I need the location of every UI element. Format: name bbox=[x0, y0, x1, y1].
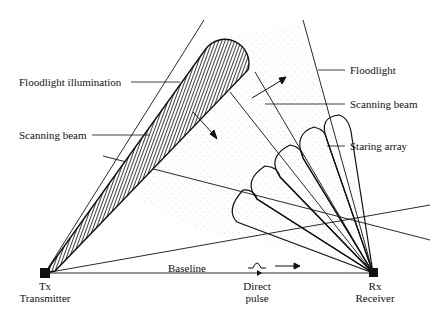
direct-pulse-line2: pulse bbox=[235, 292, 279, 304]
label-baseline: Baseline bbox=[168, 262, 206, 274]
bistatic-radar-diagram: Floodlight illumination Scanning beam Fl… bbox=[0, 0, 438, 317]
label-floodlight-illumination: Floodlight illumination bbox=[19, 76, 121, 88]
label-staring-array: Staring array bbox=[350, 140, 407, 152]
baseline-arrowhead bbox=[257, 270, 262, 276]
label-scanning-beam-left: Scanning beam bbox=[19, 129, 87, 141]
direct-pulse-line1: Direct bbox=[235, 280, 279, 292]
label-direct-pulse: Direct pulse bbox=[235, 280, 279, 304]
rx-abbr: Rx bbox=[343, 280, 407, 292]
label-floodlight: Floodlight bbox=[350, 64, 396, 76]
direct-pulse-icon bbox=[248, 263, 300, 269]
tx-abbr: Tx bbox=[10, 280, 80, 292]
baseline bbox=[45, 270, 373, 276]
label-transmitter: Tx Transmitter bbox=[10, 280, 80, 304]
label-receiver: Rx Receiver bbox=[343, 280, 407, 304]
tx-node-icon bbox=[40, 268, 50, 278]
diagram-canvas bbox=[0, 0, 438, 317]
tx-name: Transmitter bbox=[10, 292, 80, 304]
label-scanning-beam-right: Scanning beam bbox=[350, 98, 418, 110]
rx-node-icon bbox=[369, 268, 378, 277]
rx-name: Receiver bbox=[343, 292, 407, 304]
